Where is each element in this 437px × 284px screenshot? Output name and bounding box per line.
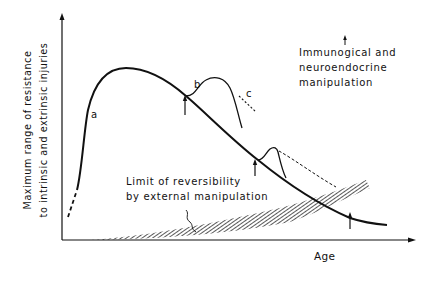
resistance-vs-age-diagram: Maximum range of resistance to intrinsic… — [0, 0, 437, 284]
curve-label-a: a — [91, 109, 97, 120]
y-axis-arrow-icon — [60, 13, 65, 20]
reversibility-limit-annotation: Limit of reversibility by external manip… — [126, 174, 268, 204]
y-axis-label-line1: Maximum range of resistance — [20, 20, 36, 240]
y-axis-label-line2: to intrinsic and extrinsic injuries — [36, 20, 52, 240]
immunological-manipulation-annotation: Immunogical and neuroendocrine manipulat… — [299, 45, 396, 90]
curve-label-c: c — [246, 88, 252, 99]
diagram-canvas — [0, 0, 437, 284]
x-axis-arrow-icon — [408, 238, 416, 243]
annotation-line1: Immunogical and — [299, 45, 396, 60]
x-axis-label: Age — [314, 250, 335, 262]
y-axis-label: Maximum range of resistance to intrinsic… — [20, 20, 36, 240]
annotation-line2: neuroendocrine — [299, 60, 396, 75]
annotation-line1: Limit of reversibility — [126, 174, 268, 189]
arrow-up-icon — [348, 212, 352, 218]
main-curve-a-dashed-start — [68, 193, 76, 217]
annotation-line3: manipulation — [299, 75, 396, 90]
legend-arrow-up-icon — [343, 35, 347, 40]
curve-label-b: b — [194, 79, 200, 90]
annotation-line2: by external manipulation — [126, 189, 268, 204]
